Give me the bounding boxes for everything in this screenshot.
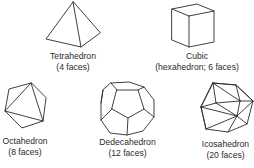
tetrahedron-caption: (4 faces) — [42, 62, 104, 73]
icosahedron-name: Icosahedron — [197, 139, 254, 150]
tetrahedron-drawing — [46, 2, 100, 47]
icosahedron-caption: (20 faces) — [197, 150, 254, 161]
cubic-name: Cubic — [140, 51, 254, 62]
dodecahedron-name: Dedecahedron — [95, 137, 160, 148]
cubic-caption: (hexahedron; 6 faces) — [140, 62, 254, 73]
tetrahedron-label: Tetrahedron (4 faces) — [42, 51, 104, 72]
octahedron-caption: (8 faces) — [0, 147, 50, 158]
octahedron-label: Octahedron (8 faces) — [0, 136, 50, 157]
icosahedron-label: Icosahedron (20 faces) — [197, 139, 254, 160]
dodecahedron-caption: (12 faces) — [95, 148, 160, 159]
octahedron-drawing — [5, 83, 46, 128]
icosahedron-drawing — [201, 83, 253, 132]
octahedron-name: Octahedron — [0, 136, 50, 147]
dodecahedron-label: Dedecahedron (12 faces) — [95, 137, 160, 158]
cube-drawing — [172, 4, 214, 47]
dodecahedron-drawing — [101, 82, 154, 135]
cubic-label: Cubic (hexahedron; 6 faces) — [140, 51, 254, 72]
tetrahedron-name: Tetrahedron — [42, 51, 104, 62]
